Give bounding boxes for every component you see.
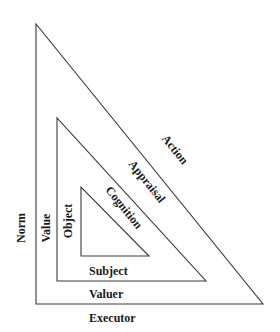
label-subject: Subject bbox=[89, 264, 128, 278]
nested-triangle-diagram: Norm Value Object Subject Valuer Executo… bbox=[0, 0, 280, 332]
label-value: Value bbox=[39, 213, 53, 243]
label-appraisal: Appraisal bbox=[126, 157, 169, 206]
label-norm: Norm bbox=[14, 213, 28, 243]
outer-triangle bbox=[36, 24, 263, 304]
label-action: Action bbox=[159, 132, 191, 167]
label-object: Object bbox=[61, 204, 75, 239]
label-valuer: Valuer bbox=[89, 287, 124, 301]
label-executor: Executor bbox=[89, 311, 136, 325]
